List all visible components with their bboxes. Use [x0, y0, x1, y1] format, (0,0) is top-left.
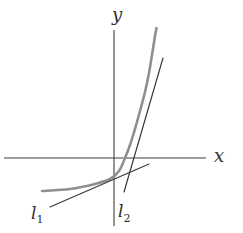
graph-canvas: y x l1 l2 [0, 0, 243, 233]
tangent-l1-label: l1 [31, 203, 43, 226]
tangent-l2-subscript: 2 [123, 212, 130, 225]
tangent-l1-subscript: 1 [36, 213, 43, 226]
tangent-l2-label: l2 [118, 201, 130, 225]
tangent-line-l1 [50, 164, 149, 207]
x-axis-label: x [214, 145, 224, 166]
y-axis-label: y [111, 4, 123, 25]
function-graph-figure: y x l1 l2 [0, 0, 243, 233]
exponential-curve [42, 28, 157, 191]
tangent-line-l2 [124, 58, 163, 192]
